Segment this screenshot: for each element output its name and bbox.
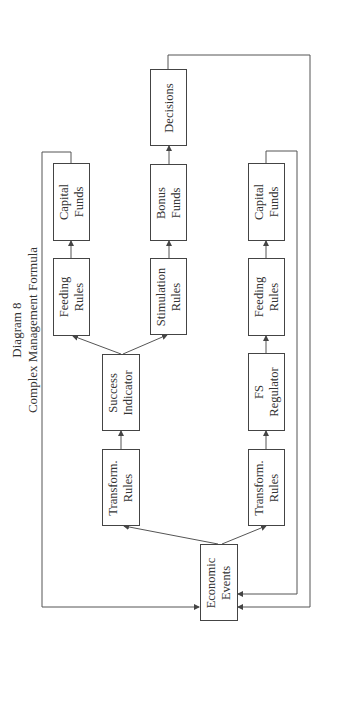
arrow-success-to-feeding	[73, 336, 121, 354]
title-line-1: Diagram 8	[9, 247, 25, 413]
node-label: Funds	[169, 187, 184, 219]
node-label: Economic	[204, 557, 219, 608]
node-transform-rules-bottom: Transform.Rules	[248, 449, 285, 526]
node-feeding-rules-top: FeedingRules	[53, 258, 90, 336]
node-label: Transform.	[252, 460, 267, 515]
node-capital-funds-top: CapitalFunds	[53, 163, 90, 241]
node-label: Rules	[72, 277, 87, 317]
node-label: Regulator	[267, 367, 282, 416]
node-transform-rules-top: Transform.Rules	[102, 449, 140, 526]
node-label: Feeding	[252, 277, 267, 317]
node-capital-funds-bottom: CapitalFunds	[248, 163, 285, 241]
node-label: Rules	[267, 277, 282, 317]
node-bonus-funds: BonusFunds	[150, 164, 187, 241]
node-label: Capital	[252, 184, 267, 220]
title-line-2: Complex Management Formula	[25, 247, 41, 413]
node-decisions: Decisions	[150, 69, 187, 146]
diagram-title: Diagram 8 Complex Management Formula	[9, 247, 41, 413]
node-feeding-rules-bottom: FeedingRules	[248, 258, 285, 336]
arrow-events-to-transform-bottom	[222, 526, 266, 544]
node-label: FS	[252, 367, 267, 416]
node-label: Bonus	[154, 187, 169, 219]
diagram-canvas: Diagram 8 Complex Management Formula Cap…	[0, 0, 343, 704]
node-label: Funds	[72, 184, 87, 220]
arrow-success-to-stimulation	[123, 335, 167, 354]
node-label: Capital	[57, 184, 72, 220]
node-label: Rules	[169, 267, 184, 325]
node-label: Events	[219, 557, 234, 608]
node-label: Feeding	[57, 277, 72, 317]
node-label: Funds	[267, 184, 282, 220]
node-label: Rules	[121, 460, 136, 515]
loop-decisions-to-events	[168, 55, 310, 607]
node-label: Decisions	[161, 83, 176, 132]
node-stimulation-rules: StimulationRules	[150, 258, 187, 335]
node-label: Stimulation	[154, 267, 169, 325]
node-fs-regulator: FSRegulator	[248, 353, 285, 431]
node-label: Transform.	[106, 460, 121, 515]
node-label: Success	[106, 370, 121, 415]
node-success-indicator: SuccessIndicator	[102, 354, 140, 431]
node-economic-events: EconomicEvents	[200, 544, 238, 621]
node-label: Rules	[267, 460, 282, 515]
node-label: Indicator	[121, 370, 136, 415]
arrow-events-to-transform-top	[124, 526, 218, 544]
